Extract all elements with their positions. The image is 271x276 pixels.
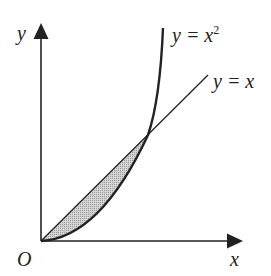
parabola-label-lhs: y = x xyxy=(170,24,213,47)
function-graph: y x O y = x2 y = x xyxy=(0,0,271,276)
line-label: y = x xyxy=(211,70,254,93)
y-axis-arrow-icon xyxy=(34,23,49,39)
y-axis-label: y xyxy=(15,22,26,45)
x-axis-label: x xyxy=(229,248,239,270)
line-y-equals-x xyxy=(41,75,208,241)
parabola-label-exponent: 2 xyxy=(213,23,219,37)
parabola-y-equals-x-squared xyxy=(41,28,163,241)
parabola-label: y = x2 xyxy=(170,23,219,47)
x-axis-arrow-icon xyxy=(227,234,243,249)
origin-label: O xyxy=(17,248,31,270)
